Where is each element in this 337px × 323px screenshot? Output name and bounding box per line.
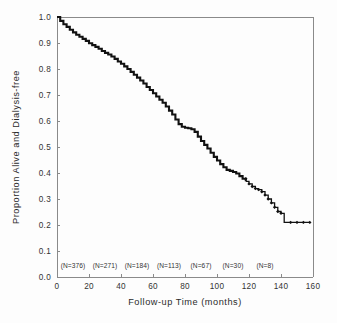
- x-tick-label: 60: [148, 282, 158, 291]
- censor-mark: [251, 185, 254, 188]
- censor-mark: [263, 193, 266, 196]
- at-risk-label: (N=67): [191, 262, 212, 270]
- censor-mark: [302, 221, 305, 224]
- x-tick-label: 20: [84, 282, 94, 291]
- x-tick-label: 40: [116, 282, 126, 291]
- x-tick-label: 140: [274, 282, 289, 291]
- y-tick-label: 0.1: [39, 247, 51, 256]
- at-risk-label: (N=30): [223, 262, 244, 270]
- km-plot-svg: 0.00.10.20.30.40.50.60.70.80.91.0 020406…: [0, 0, 337, 323]
- censor-mark: [295, 221, 298, 224]
- at-risk-label: (N=184): [125, 262, 150, 270]
- censor-mark: [276, 210, 279, 213]
- censor-mark: [254, 187, 257, 190]
- at-risk-label: (N=376): [61, 262, 86, 270]
- y-tick-label: 0.4: [39, 169, 51, 178]
- at-risk-labels: (N=376)(N=271)(N=184)(N=113)(N=67)(N=30)…: [61, 262, 274, 270]
- y-tick-label: 0.6: [39, 117, 51, 126]
- x-tick-label: 120: [242, 282, 257, 291]
- y-tick-label: 0.5: [39, 143, 51, 152]
- x-tick-label: 80: [180, 282, 190, 291]
- y-tick-label: 0.7: [39, 91, 51, 100]
- km-survival-curve: [57, 17, 246, 181]
- y-tick-label: 0.0: [39, 273, 51, 282]
- censor-mark: [308, 221, 311, 224]
- censor-mark: [244, 177, 247, 180]
- at-risk-label: (N=8): [256, 262, 273, 270]
- y-axis-title: Proportion Alive and Dialysis-free: [11, 70, 21, 224]
- y-tick-label: 0.3: [39, 195, 51, 204]
- censor-mark: [267, 197, 270, 200]
- x-tick-label: 100: [210, 282, 225, 291]
- censor-mark: [260, 190, 263, 193]
- censor-mark: [270, 201, 273, 204]
- y-tick-label: 0.8: [39, 65, 51, 74]
- kaplan-meier-figure: 0.00.10.20.30.40.50.60.70.80.91.0 020406…: [0, 0, 337, 323]
- x-axis-title: Follow-up Time (months): [128, 297, 242, 307]
- censoring-marks: [244, 177, 311, 224]
- x-tick-label: 160: [306, 282, 321, 291]
- at-risk-label: (N=113): [157, 262, 181, 270]
- at-risk-label: (N=271): [93, 262, 118, 270]
- censor-mark: [289, 221, 292, 224]
- censor-mark: [273, 206, 276, 209]
- y-tick-label: 0.9: [39, 39, 51, 48]
- plot-frame: [57, 17, 313, 277]
- y-tick-label: 1.0: [39, 13, 51, 22]
- y-tick-label: 0.2: [39, 221, 51, 230]
- survival-curve-group: [57, 17, 312, 224]
- censor-mark: [247, 182, 250, 185]
- x-tick-label: 0: [55, 282, 60, 291]
